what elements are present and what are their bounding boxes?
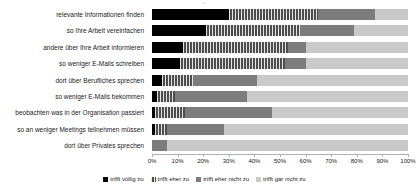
bar-row [152, 9, 408, 20]
x-axis-tick [382, 154, 383, 157]
bar-segment [183, 42, 288, 53]
x-axis-tick [152, 154, 153, 157]
legend-item: trifft eher nicht zu [196, 176, 249, 182]
bar-segment [285, 58, 305, 69]
bar-segment [152, 42, 183, 53]
bar-segment [257, 75, 408, 86]
legend-label: trifft eher nicht zu [203, 176, 249, 182]
legend-label: trifft völlig zu [110, 176, 143, 182]
bar-segment [152, 58, 180, 69]
x-axis-tick-label: 30% [217, 158, 241, 164]
bar-segment [354, 25, 408, 36]
x-axis-tick [331, 154, 332, 157]
bar-segment [155, 107, 186, 118]
x-axis-tick [229, 154, 230, 157]
x-axis-tick-label: 70% [319, 158, 343, 164]
category-label: beobachten was in der Organisation passi… [0, 109, 144, 116]
bar-row [152, 140, 408, 151]
x-axis-tick-label: 60% [294, 158, 318, 164]
bar-row [152, 124, 408, 135]
bar-segment [167, 140, 408, 151]
bar-row [152, 25, 408, 36]
category-label: dort über Berufliches sprechen [0, 77, 144, 84]
bar-segment [193, 75, 257, 86]
bar-segment [185, 107, 272, 118]
x-axis-tick-label: 90% [370, 158, 394, 164]
legend-item: trifft völlig zu [103, 176, 143, 182]
category-label: andere über Ihre Arbeit informieren [0, 44, 144, 51]
bar-segment [152, 25, 206, 36]
bar-segment [318, 9, 374, 20]
bar-segment [247, 91, 408, 102]
bar-segment [157, 91, 175, 102]
category-axis-labels: relevante Informationen findenso Ihre Ar… [0, 6, 148, 154]
x-axis-tick-label: 0% [140, 158, 164, 164]
bar-segment [206, 25, 301, 36]
x-axis-tick [254, 154, 255, 157]
bar-segment [152, 9, 229, 20]
bar-segment [162, 75, 193, 86]
x-axis-tick [408, 154, 409, 157]
bar-segment [224, 124, 408, 135]
bar-segment [288, 42, 306, 53]
bar-segment [229, 9, 319, 20]
bar-segment [272, 107, 408, 118]
legend-item: trifft eher zu [151, 176, 190, 182]
x-axis-tick-label: 40% [242, 158, 266, 164]
category-label: so Ihre Arbeit vereinfachen [0, 27, 144, 34]
category-label: relevante Informationen finden [0, 11, 144, 18]
legend-swatch-icon [196, 177, 201, 182]
plot-area [152, 6, 408, 154]
bar-row [152, 42, 408, 53]
stray-artifact-dot [203, 2, 205, 4]
x-axis-tick-label: 20% [191, 158, 215, 164]
x-axis-tick [203, 154, 204, 157]
bar-segment [152, 140, 167, 151]
bar-segment [152, 75, 162, 86]
x-axis-tick-label: 100% [396, 158, 420, 164]
bar-row [152, 58, 408, 69]
category-label: so weniger E-Mails schreiben [0, 60, 144, 67]
legend-swatch-icon [103, 177, 108, 182]
bar-segment [180, 58, 285, 69]
bar-segment [167, 124, 223, 135]
bar-segment [300, 25, 354, 36]
bar-segment [375, 9, 408, 20]
bar-row [152, 91, 408, 102]
x-axis-tick-label: 10% [166, 158, 190, 164]
bar-segment [306, 42, 408, 53]
chart-legend: trifft völlig zutrifft eher zutrifft ehe… [0, 176, 409, 182]
legend-item: trifft gar nicht zu [256, 176, 306, 182]
category-label: so an weniger Meetings teilnehmen müssen [0, 126, 144, 133]
legend-label: trifft eher zu [158, 176, 190, 182]
bar-segment [155, 124, 168, 135]
x-axis-tick-label: 50% [268, 158, 292, 164]
x-axis-tick [306, 154, 307, 157]
legend-swatch-icon [256, 177, 261, 182]
bar-segment [306, 58, 408, 69]
category-label: dort über Privates sprechen [0, 142, 144, 149]
bar-segment [175, 91, 247, 102]
bar-row [152, 75, 408, 86]
x-axis-tick [280, 154, 281, 157]
legend-swatch-icon [151, 177, 156, 182]
x-axis-tick [357, 154, 358, 157]
x-axis-tick [178, 154, 179, 157]
legend-label: trifft gar nicht zu [263, 176, 306, 182]
category-label: so weniger E-Mails bekommen [0, 93, 144, 100]
x-axis-tick-label: 80% [345, 158, 369, 164]
bar-row [152, 107, 408, 118]
